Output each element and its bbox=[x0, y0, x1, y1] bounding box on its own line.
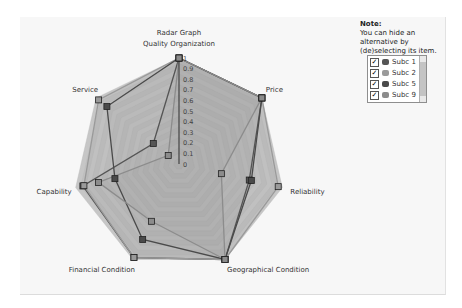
data-point-marker bbox=[96, 97, 102, 103]
scale-tick-label: 0.3 bbox=[183, 129, 193, 137]
scale-tick-label: 1 bbox=[183, 55, 187, 63]
scale-tick-label: 0.4 bbox=[183, 118, 193, 126]
legend-label: Subc 9 bbox=[392, 90, 416, 100]
scale-tick-label: 0.6 bbox=[183, 97, 193, 105]
axis-label: Capability bbox=[37, 188, 72, 196]
series-swatch-icon bbox=[382, 92, 389, 98]
legend-label: Subc 1 bbox=[392, 57, 416, 67]
data-point-marker bbox=[112, 176, 118, 182]
series-swatch-icon bbox=[382, 81, 389, 87]
scale-tick-label: 0.8 bbox=[183, 76, 193, 84]
scale-tick-label: 0.5 bbox=[183, 108, 193, 116]
note-text: You can hide an alternative by (de)selec… bbox=[360, 29, 450, 56]
legend-item-subc-2[interactable]: ✓ Subc 2 bbox=[370, 68, 420, 78]
data-point-marker bbox=[275, 184, 281, 190]
legend-item-subc-5[interactable]: ✓ Subc 5 bbox=[370, 79, 420, 89]
data-point-marker bbox=[218, 171, 224, 177]
legend-scrollbar[interactable] bbox=[419, 56, 426, 102]
scrollbar-thumb[interactable] bbox=[420, 62, 426, 96]
data-point-marker bbox=[140, 236, 146, 242]
data-point-marker bbox=[259, 95, 265, 101]
legend-item-subc-1[interactable]: ✓ Subc 1 bbox=[370, 57, 420, 67]
series-swatch-icon bbox=[382, 59, 389, 65]
data-point-marker bbox=[248, 178, 254, 184]
legend-label: Subc 5 bbox=[392, 79, 416, 89]
legend-item-subc-9[interactable]: ✓ Subc 9 bbox=[370, 90, 420, 100]
series-swatch-icon bbox=[382, 70, 389, 76]
chart-title: Radar Graph bbox=[157, 29, 201, 37]
axis-label: Quality Organization bbox=[143, 40, 215, 48]
legend-label: Subc 2 bbox=[392, 68, 416, 78]
scale-tick-label: 0.2 bbox=[183, 139, 193, 147]
legend-list[interactable]: ✓ Subc 1 ✓ Subc 2 ✓ Subc 5 ✓ Subc 9 bbox=[367, 55, 427, 103]
data-point-marker bbox=[176, 55, 182, 61]
data-point-marker bbox=[81, 183, 87, 189]
axis-label: Service bbox=[72, 86, 98, 94]
axis-label: Reliability bbox=[290, 188, 324, 196]
data-point-marker bbox=[131, 255, 137, 261]
data-point-marker bbox=[148, 218, 154, 224]
checkbox-icon[interactable]: ✓ bbox=[370, 91, 379, 100]
scale-tick-label: 0.1 bbox=[183, 150, 193, 158]
data-point-marker bbox=[95, 179, 101, 185]
scale-tick-label: 0.9 bbox=[183, 65, 193, 73]
data-point-marker bbox=[165, 152, 171, 158]
checkbox-icon[interactable]: ✓ bbox=[370, 58, 379, 67]
data-point-marker bbox=[222, 257, 228, 263]
scale-tick-label: 0 bbox=[183, 161, 187, 169]
checkbox-icon[interactable]: ✓ bbox=[370, 69, 379, 78]
data-point-marker bbox=[104, 104, 110, 110]
checkbox-icon[interactable]: ✓ bbox=[370, 80, 379, 89]
note-box: Note: You can hide an alternative by (de… bbox=[360, 20, 450, 56]
axis-label: Price bbox=[266, 86, 283, 94]
note-title: Note: bbox=[360, 20, 450, 29]
axis-label: Geographical Condition bbox=[227, 266, 309, 274]
scale-tick-label: 0.7 bbox=[183, 86, 193, 94]
data-point-marker bbox=[150, 141, 156, 147]
axis-label: Financial Condition bbox=[69, 266, 135, 274]
